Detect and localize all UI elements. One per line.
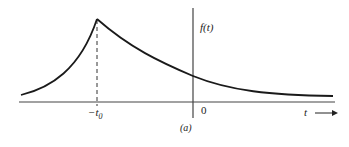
peak-label-prefix: −t	[88, 106, 98, 118]
plot	[0, 0, 349, 147]
x-axis-label: t	[304, 106, 307, 118]
curve-decaying	[97, 19, 333, 96]
peak-label-sub: 0	[98, 112, 102, 121]
peak-label: −t0	[88, 106, 102, 121]
caption: (a)	[180, 122, 192, 133]
figure: f(t) −t0 0 t (a)	[0, 0, 349, 147]
origin-label: 0	[201, 104, 207, 116]
curve-rising	[21, 19, 97, 95]
function-label: f(t)	[200, 21, 213, 33]
arrow-head-icon	[332, 110, 338, 116]
